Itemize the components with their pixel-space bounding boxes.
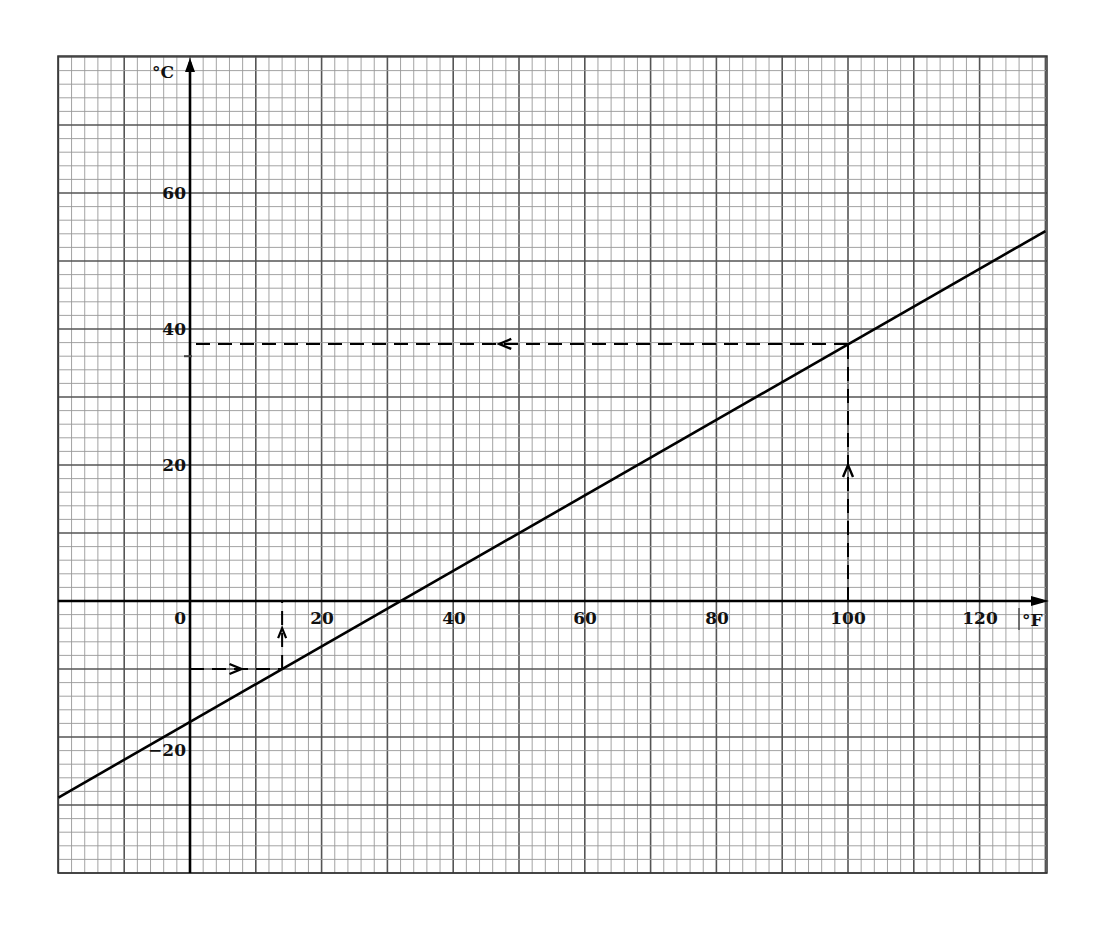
x-tick-40: 40: [442, 608, 466, 628]
x-tick-60: 60: [573, 608, 597, 628]
x-tick-0: 0: [174, 608, 186, 628]
grid: [58, 56, 1047, 873]
x-tick-120: 120: [962, 608, 998, 628]
conversion-chart: °C °F 0 20 40 60 80 100 120 60 40 20 −20: [0, 0, 1099, 930]
x-tick-100: 100: [830, 608, 866, 628]
x-tick-20: 20: [310, 608, 334, 628]
y-tick-40: 40: [162, 319, 186, 339]
y-axis-unit-label: °C: [152, 62, 174, 82]
x-tick-80: 80: [705, 608, 729, 628]
y-axis-arrow-icon: [185, 58, 195, 72]
y-tick-60: 60: [162, 183, 186, 203]
y-tick-20: 20: [162, 455, 186, 475]
y-tick-neg20: −20: [148, 740, 186, 760]
conversion-line: [58, 231, 1045, 797]
x-axis-unit-label: °F: [1022, 610, 1043, 630]
